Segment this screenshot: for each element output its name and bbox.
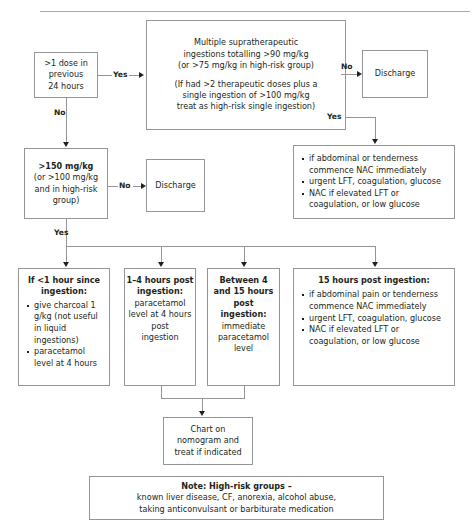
under-1-hour-bullet-1: give charcoal 1 g/kg (not useful in liqu… bbox=[25, 300, 103, 346]
fifteen-hours-list: if abdominal pain or tenderness commence… bbox=[300, 289, 448, 347]
edge-repeat-yes bbox=[98, 75, 112, 76]
discharge-mid: Discharge bbox=[146, 159, 205, 212]
high-risk-bullet-2: urgent LFT, coagulation, glucose bbox=[300, 176, 448, 188]
timing-box-4-15-hours: Between 4 and 15 hours post ingestion: i… bbox=[207, 268, 280, 386]
arrow-supra-yes bbox=[372, 139, 378, 144]
arrow-timing-3 bbox=[241, 262, 247, 267]
timing-box-under-1-hour: If <1 hour since ingestion: give charcoa… bbox=[18, 268, 110, 386]
edge-supra-no-2 bbox=[341, 74, 357, 75]
one-four-heading-2: ingestion: bbox=[125, 286, 195, 297]
arrow-repeat-yes bbox=[139, 72, 144, 78]
decision-repeat-dose: >1 dose in previous 24 hours bbox=[34, 52, 98, 98]
high-risk-actions-list: if abdominal or tenderness commence NAC … bbox=[300, 153, 448, 211]
note-line-1: known liver disease, CF, anorexia, alcoh… bbox=[90, 492, 383, 503]
dose-threshold-line-1: >150 mg/kg bbox=[25, 161, 107, 172]
edge-supra-yes-2 bbox=[349, 117, 376, 118]
fifteen-hours-bullet-3: NAC if elevated LFT or coagulation, or l… bbox=[300, 324, 448, 347]
edge-supra-yes-drop bbox=[375, 117, 376, 140]
edge-merge-right bbox=[244, 386, 245, 398]
edge-timing-bus bbox=[66, 246, 375, 247]
arrow-nomogram bbox=[199, 411, 205, 416]
one-four-body-1: paracetamol bbox=[125, 298, 195, 309]
supratherapeutic-note-3: treat as high-risk single ingestion) bbox=[151, 101, 341, 112]
timing-box-1-4-hours: 1–4 hours post ingestion: paracetamol le… bbox=[124, 268, 196, 386]
nomogram-box: Chart on nomogram and treat if indicated bbox=[163, 417, 253, 465]
repeat-dose-line-1: >1 dose in bbox=[35, 58, 97, 69]
repeat-dose-line-2: previous bbox=[35, 69, 97, 80]
one-four-body-3: post bbox=[125, 321, 195, 332]
arrow-timing-4 bbox=[372, 262, 378, 267]
discharge-top: Discharge bbox=[362, 50, 428, 98]
edge-timing-drop-1 bbox=[66, 246, 67, 262]
dose-threshold-line-2: (or >100 mg/kg bbox=[25, 172, 107, 183]
high-risk-bullet-3: NAC if elevated LFT or coagulation, or l… bbox=[300, 188, 448, 211]
edge-dose-no-2 bbox=[133, 186, 141, 187]
edge-label-repeat-yes: Yes bbox=[113, 70, 127, 79]
edge-merge-bus bbox=[161, 398, 245, 399]
four-fifteen-heading-3: post bbox=[208, 298, 279, 309]
under-1-hour-bullet-2: paracetamol level at 4 hours bbox=[25, 346, 103, 369]
high-risk-actions-box: if abdominal or tenderness commence NAC … bbox=[293, 145, 455, 219]
four-fifteen-body-3: level bbox=[208, 343, 279, 354]
edge-repeat-yes-2 bbox=[129, 75, 139, 76]
edge-timing-drop-3 bbox=[244, 246, 245, 262]
supratherapeutic-line-3: (or >75 mg/kg in high-risk group) bbox=[151, 60, 341, 71]
note-high-risk-groups: Note: High-risk groups – known liver dis… bbox=[89, 476, 384, 520]
nomogram-line-3: treat if indicated bbox=[164, 447, 252, 458]
under-1-hour-heading-1: If <1 hour since bbox=[25, 275, 103, 286]
fifteen-hours-bullet-2: urgent LFT, coagulation, glucose bbox=[300, 313, 448, 325]
decision-supratherapeutic: Multiple supratherapeutic ingestions tot… bbox=[146, 20, 346, 130]
edge-merge-left bbox=[161, 386, 162, 398]
edge-merge-drop bbox=[202, 398, 203, 412]
discharge-top-label: Discharge bbox=[363, 68, 427, 79]
edge-label-supra-no: No bbox=[341, 62, 353, 71]
edge-label-repeat-no: No bbox=[54, 108, 66, 117]
timing-box-15-hours: 15 hours post ingestion: if abdominal pa… bbox=[293, 268, 455, 386]
four-fifteen-heading-2: and 15 hours bbox=[208, 286, 279, 297]
edge-repeat-no bbox=[66, 98, 67, 142]
one-four-body-4: ingestion bbox=[125, 332, 195, 343]
decision-dose-threshold: >150 mg/kg (or >100 mg/kg and in high-ri… bbox=[24, 148, 108, 219]
nomogram-line-2: nomogram and bbox=[164, 435, 252, 446]
four-fifteen-heading-1: Between 4 bbox=[208, 275, 279, 286]
one-four-heading-1: 1–4 hours post bbox=[125, 275, 195, 286]
arrow-timing-1 bbox=[63, 262, 69, 267]
edge-dose-no bbox=[108, 186, 118, 187]
four-fifteen-body-1: immediate bbox=[208, 321, 279, 332]
supratherapeutic-note-2: single ingestion of >100 mg/kg bbox=[151, 90, 341, 101]
note-line-2: taking anticonvulsant or barbiturate med… bbox=[90, 504, 383, 515]
edge-timing-drop-4 bbox=[375, 246, 376, 262]
supratherapeutic-spacer bbox=[151, 72, 341, 79]
under-1-hour-list: give charcoal 1 g/kg (not useful in liqu… bbox=[25, 300, 103, 370]
under-1-hour-heading-2: ingestion: bbox=[25, 286, 103, 297]
top-divider-rule bbox=[40, 11, 470, 12]
four-fifteen-heading-4: ingestion: bbox=[208, 309, 279, 320]
nomogram-line-1: Chart on bbox=[164, 424, 252, 435]
edge-label-supra-yes: Yes bbox=[327, 112, 341, 121]
edge-label-dose-no: No bbox=[119, 181, 131, 190]
supratherapeutic-line-2: ingestions totalling >90 mg/kg bbox=[151, 49, 341, 60]
arrow-timing-2 bbox=[158, 262, 164, 267]
one-four-body-2: level at 4 hours bbox=[125, 309, 195, 320]
note-heading: Note: High-risk groups – bbox=[90, 481, 383, 492]
supratherapeutic-line-1: Multiple supratherapeutic bbox=[151, 37, 341, 48]
discharge-mid-label: Discharge bbox=[147, 180, 204, 191]
edge-label-dose-yes: Yes bbox=[54, 228, 68, 237]
dose-threshold-line-4: group) bbox=[25, 195, 107, 206]
dose-threshold-line-3: and in high-risk bbox=[25, 184, 107, 195]
fifteen-hours-bullet-1: if abdominal pain or tenderness commence… bbox=[300, 289, 448, 312]
supratherapeutic-note-1: (If had >2 therapeutic doses plus a bbox=[151, 79, 341, 90]
high-risk-bullet-1: if abdominal or tenderness commence NAC … bbox=[300, 153, 448, 176]
arrow-repeat-no bbox=[63, 142, 69, 147]
four-fifteen-body-2: paracetamol bbox=[208, 332, 279, 343]
fifteen-hours-heading: 15 hours post ingestion: bbox=[300, 275, 448, 286]
edge-timing-drop-2 bbox=[161, 246, 162, 262]
repeat-dose-line-3: 24 hours bbox=[35, 81, 97, 92]
